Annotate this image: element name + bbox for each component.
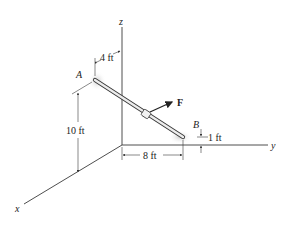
dimension-8ft-label: 8 ft: [143, 150, 157, 161]
point-a-label: A: [75, 69, 83, 80]
point-b-label: B: [193, 119, 199, 130]
dimension-10ft: 10 ft: [66, 82, 92, 172]
dimension-1ft: 1 ft: [197, 129, 222, 153]
x-axis: [24, 145, 122, 204]
dimension-10ft-label: 10 ft: [66, 125, 85, 136]
z-axis-label: z: [118, 16, 123, 27]
force-f: F: [150, 97, 183, 112]
rod-force-diagram: z y x F A B 4 ft: [0, 0, 292, 225]
force-label: F: [177, 97, 183, 108]
dimension-1ft-label: 1 ft: [208, 132, 222, 143]
force-arrow-icon: [150, 102, 172, 112]
dimension-4ft-label: 4 ft: [100, 52, 114, 63]
x-axis-label: x: [14, 203, 20, 214]
dimension-8ft: 8 ft: [122, 140, 183, 161]
rod-ab: [95, 80, 183, 137]
y-axis-label: y: [270, 140, 276, 151]
